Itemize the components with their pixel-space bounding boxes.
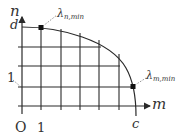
- origin-label: O: [15, 119, 26, 135]
- x-end-label: c: [132, 116, 140, 131]
- y-tick-label: 1: [7, 70, 15, 85]
- point-lambda-n-min: [39, 25, 44, 30]
- point-lambda-m-min: [131, 84, 136, 89]
- label-lambda-m-min: λm,min: [145, 69, 176, 83]
- grid-horizontal-lines: [18, 47, 133, 87]
- leader-lambda-n-min: [43, 15, 57, 26]
- x-axis-label: m: [152, 95, 166, 113]
- leader-lambda-m-min: [135, 78, 146, 85]
- x-tick-label: 1: [37, 120, 45, 135]
- label-lambda-n-min: λn,min: [56, 7, 85, 21]
- y-top-label: d: [10, 17, 18, 32]
- grid-vertical-lines: [41, 27, 119, 110]
- quarter-ellipse-grid-diagram: n d m c O 1 1 λn,min λm,min: [0, 0, 184, 135]
